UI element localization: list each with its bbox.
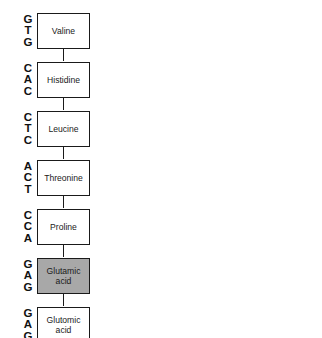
peptide-bond-connector — [63, 293, 65, 306]
amino-acid-sequence-diagram: GTGValineCACHistidineCTCLeucineACTThreon… — [0, 0, 322, 338]
codon-base: G — [24, 282, 33, 294]
amino-acid-label: Glutomic acid — [39, 315, 88, 335]
amino-acid-label: Valine — [52, 26, 75, 36]
codon-label: GAG — [21, 259, 35, 294]
codon-label: CCA — [21, 210, 35, 245]
codon-label: CTC — [21, 112, 35, 147]
sequence-row: CACHistidine — [21, 62, 90, 98]
peptide-bond-connector — [63, 97, 65, 110]
peptide-bond-connector — [63, 48, 65, 61]
sequence-row: CTCLeucine — [21, 111, 90, 147]
sequence-column-mutated: GTGValineCACHistidineCTCLeucineACTThreon… — [161, 0, 322, 338]
amino-acid-label: Proline — [50, 222, 77, 232]
codon-label: ACT — [21, 161, 35, 196]
codon-base: G — [24, 37, 33, 49]
peptide-bond-connector — [63, 146, 65, 159]
sequence-row: GAGGlutamic acid — [21, 258, 90, 294]
amino-acid-chain-normal: GTGValineCACHistidineCTCLeucineACTThreon… — [21, 13, 90, 338]
peptide-bond-connector — [63, 244, 65, 257]
codon-label: CAC — [21, 63, 35, 98]
codon-base: C — [24, 86, 32, 98]
sequence-row: CCAProline — [21, 209, 90, 245]
codon-base: G — [24, 331, 33, 338]
codon-base: T — [24, 184, 31, 196]
codon-base: C — [24, 135, 32, 147]
amino-acid-label: Glutamic acid — [39, 266, 88, 286]
sequence-column-normal: GTGValineCACHistidineCTCLeucineACTThreon… — [0, 0, 161, 338]
sequence-row: ACTThreonine — [21, 160, 90, 196]
amino-acid-box: Leucine — [37, 111, 90, 147]
amino-acid-label: Threonine — [44, 173, 83, 183]
amino-acid-label: Leucine — [48, 124, 78, 134]
amino-acid-box: Glutomic acid — [37, 307, 90, 338]
peptide-bond-connector — [63, 195, 65, 208]
codon-base: A — [24, 233, 32, 245]
amino-acid-box: Histidine — [37, 62, 90, 98]
amino-acid-box: Valine — [37, 13, 90, 49]
sequence-row: GTGValine — [21, 13, 90, 49]
amino-acid-box-highlighted: Glutamic acid — [37, 258, 90, 294]
codon-label: GTG — [21, 14, 35, 49]
sequence-row: GAGGlutomic acid — [21, 307, 90, 338]
amino-acid-box: Threonine — [37, 160, 90, 196]
amino-acid-box: Proline — [37, 209, 90, 245]
codon-label: GAG — [21, 308, 35, 338]
amino-acid-label: Histidine — [47, 75, 80, 85]
